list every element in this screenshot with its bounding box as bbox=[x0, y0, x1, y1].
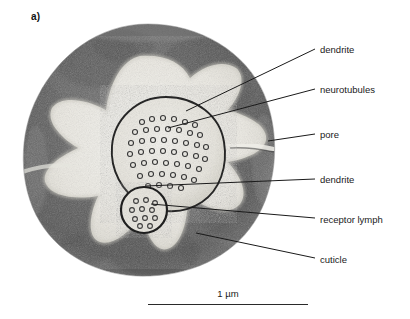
label-cuticle: cuticle bbox=[320, 254, 347, 265]
label-dendrite-lower: dendrite bbox=[320, 174, 354, 185]
label-neurotubules: neurotubules bbox=[320, 84, 375, 95]
cuticle-region bbox=[20, 20, 276, 276]
label-pore: pore bbox=[320, 129, 339, 140]
label-receptor-lymph: receptor lymph bbox=[320, 214, 383, 225]
micrograph-image bbox=[14, 20, 282, 280]
figure-page: a) bbox=[0, 0, 410, 319]
label-dendrite-upper: dendrite bbox=[320, 44, 354, 55]
scale-bar-line bbox=[148, 304, 308, 305]
scale-bar: 1 µm bbox=[148, 288, 308, 314]
scale-bar-label: 1 µm bbox=[148, 288, 308, 299]
small-dendrite bbox=[121, 187, 167, 233]
